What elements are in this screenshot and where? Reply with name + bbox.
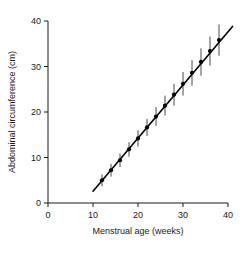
y-tick-label: 20 <box>31 107 41 117</box>
x-tick-label: 30 <box>178 210 188 220</box>
data-point <box>190 71 194 75</box>
data-point <box>199 60 203 64</box>
data-point <box>208 49 212 53</box>
y-tick-label: 40 <box>31 16 41 26</box>
data-point <box>118 158 122 162</box>
y-tick-label: 0 <box>36 198 41 208</box>
y-axis-tick-labels: 010203040 <box>31 16 41 208</box>
chart-figure: 010203040 010203040 Menstrual age (weeks… <box>0 0 249 256</box>
x-tick-label: 0 <box>45 210 50 220</box>
x-axis-title: Menstrual age (weeks) <box>92 226 183 236</box>
data-point <box>136 136 140 140</box>
data-point <box>145 125 149 129</box>
data-point <box>109 168 113 172</box>
data-point <box>127 147 131 151</box>
x-axis-tick-marks <box>48 203 228 207</box>
data-points <box>100 38 221 182</box>
x-tick-label: 10 <box>88 210 98 220</box>
data-point <box>163 104 167 108</box>
data-point <box>154 114 158 118</box>
y-tick-label: 10 <box>31 153 41 163</box>
data-point <box>217 38 221 42</box>
y-axis-tick-marks <box>44 21 48 203</box>
y-axis-title: Abdominal circumference (cm) <box>7 51 17 173</box>
axes <box>44 21 228 207</box>
x-tick-label: 40 <box>223 210 233 220</box>
y-tick-label: 30 <box>31 62 41 72</box>
data-point <box>181 82 185 86</box>
x-tick-label: 20 <box>133 210 143 220</box>
x-axis-tick-labels: 010203040 <box>45 210 233 220</box>
abdominal-circumference-scatter-chart: 010203040 010203040 Menstrual age (weeks… <box>0 0 249 256</box>
data-point <box>100 178 104 182</box>
data-point <box>172 93 176 97</box>
